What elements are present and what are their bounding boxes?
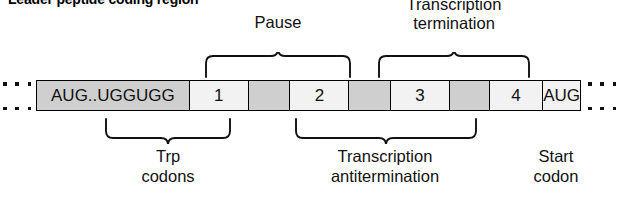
dot — [3, 82, 7, 86]
start-codon-line1: Start — [508, 147, 604, 167]
segment-1: 1 — [189, 81, 248, 110]
trp-codons-brace — [103, 118, 233, 144]
pause-label-text: Pause — [205, 13, 351, 32]
antitermination-line1: Transcription — [285, 147, 485, 167]
ellipsis-left-row-top — [3, 82, 31, 86]
ellipsis-left-row-bottom — [3, 107, 31, 111]
segment-2: 2 — [289, 81, 348, 110]
segment-start-codon: AUG — [542, 81, 580, 110]
transcription-termination-label: Transcription termination — [378, 0, 530, 33]
segment-leader-codons: AUG..UGGUGG — [37, 81, 189, 110]
dot — [28, 82, 32, 86]
mrna-bar: AUG..UGGUGG 1 2 3 4 AUG — [36, 80, 581, 111]
dot — [600, 82, 604, 86]
dot — [15, 107, 19, 111]
segment-3: 3 — [390, 81, 449, 110]
ellipsis-right — [588, 82, 618, 110]
pause-label: Pause — [205, 13, 351, 32]
transcription-antitermination-label: Transcription antitermination — [285, 147, 485, 186]
dot — [28, 107, 32, 111]
termination-label-line2: termination — [378, 14, 530, 33]
start-codon-label: Start codon — [508, 147, 604, 186]
ellipsis-right-row-bottom — [588, 107, 616, 111]
dot — [613, 82, 617, 86]
antitermination-line2: antitermination — [285, 167, 485, 187]
figure-canvas: Leader peptide coding region Pause Trans… — [0, 0, 621, 207]
trp-codons-label: Trp codons — [105, 147, 231, 186]
termination-label-line1: Transcription — [378, 0, 530, 14]
trp-codons-line2: codons — [105, 167, 231, 187]
segment-gap-1-2 — [248, 81, 290, 110]
termination-brace — [376, 52, 532, 78]
segment-gap-3-4 — [449, 81, 489, 110]
segment-4: 4 — [489, 81, 542, 110]
trp-codons-line1: Trp — [105, 147, 231, 167]
dot — [613, 107, 617, 111]
segment-gap-2-3 — [348, 81, 390, 110]
antitermination-brace — [293, 118, 479, 144]
start-codon-line2: codon — [508, 167, 604, 187]
dot — [3, 107, 7, 111]
dot — [588, 82, 592, 86]
dot — [588, 107, 592, 111]
ellipsis-left — [3, 82, 33, 110]
figure-title: Leader peptide coding region — [8, 0, 198, 7]
dot — [600, 107, 604, 111]
ellipsis-right-row-top — [588, 82, 616, 86]
pause-brace — [203, 52, 353, 78]
dot — [15, 82, 19, 86]
